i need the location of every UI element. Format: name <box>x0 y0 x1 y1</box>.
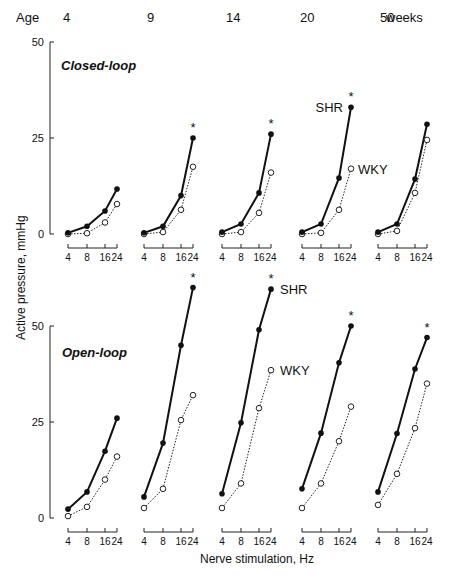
x-tick-label: 4 <box>299 536 305 547</box>
wky-point <box>299 505 305 511</box>
x-tick-label: 16 <box>253 536 265 547</box>
shr-point <box>178 342 184 348</box>
wky-point <box>348 166 354 172</box>
x-tick-label: 4 <box>141 536 147 547</box>
wky-point <box>256 210 262 216</box>
significance-star: * <box>268 116 273 131</box>
shr-point <box>299 486 305 492</box>
shr-annotation: SHR <box>316 100 343 115</box>
shr-point <box>160 440 166 446</box>
x-tick-label: 24 <box>421 536 433 547</box>
x-tick-label: 24 <box>265 536 277 547</box>
wky-point <box>102 220 108 226</box>
shr-point <box>336 360 342 366</box>
y-tick-label: 0 <box>38 228 44 240</box>
age-header: 9 <box>147 10 154 25</box>
x-tick-label: 16 <box>253 252 265 263</box>
age-header: 4 <box>63 10 70 25</box>
x-tick-label: 4 <box>299 252 305 263</box>
x-tick-label: 16 <box>175 536 187 547</box>
shr-point <box>375 229 381 235</box>
shr-point <box>318 430 324 436</box>
x-tick-label: 16 <box>99 252 111 263</box>
chart-figure: Age 49142050 weeks Closed-loop Open-loop… <box>0 0 461 579</box>
y-tick-label: 25 <box>32 416 44 428</box>
y-tick-label: 0 <box>38 512 44 524</box>
x-tick-label: 24 <box>345 536 357 547</box>
significance-star: * <box>190 120 195 135</box>
wky-point <box>141 505 147 511</box>
shr-line <box>222 134 271 232</box>
x-tick-label: 8 <box>394 536 400 547</box>
wky-point <box>394 228 400 234</box>
shr-point <box>256 327 262 333</box>
shr-point <box>219 491 225 497</box>
x-tick-label: 24 <box>187 252 199 263</box>
shr-line <box>144 288 193 497</box>
shr-point <box>348 323 354 329</box>
wky-point <box>268 170 274 176</box>
x-tick-label: 16 <box>409 252 421 263</box>
shr-point <box>336 175 342 181</box>
x-tick-label: 8 <box>84 252 90 263</box>
wky-line <box>68 457 117 517</box>
shr-line <box>222 289 271 494</box>
shr-point <box>412 176 418 182</box>
shr-point <box>394 221 400 227</box>
significance-star: * <box>424 320 429 335</box>
wky-point <box>336 438 342 444</box>
wky-point <box>318 230 324 236</box>
wky-point <box>238 229 244 235</box>
wky-line <box>302 407 351 508</box>
x-tick-label: 16 <box>333 536 345 547</box>
shr-point <box>141 230 147 236</box>
shr-point <box>84 224 90 230</box>
x-tick-label: 16 <box>175 252 187 263</box>
x-tick-label: 16 <box>333 252 345 263</box>
shr-annotation: SHR <box>280 282 307 297</box>
age-header: 14 <box>226 10 240 25</box>
wky-point <box>424 137 430 143</box>
wky-point <box>65 513 71 519</box>
x-tick-label: 8 <box>84 536 90 547</box>
shr-line <box>68 418 117 509</box>
shr-point <box>114 186 120 192</box>
shr-line <box>378 338 427 492</box>
wky-point <box>348 404 354 410</box>
shr-point <box>84 489 90 495</box>
x-tick-label: 24 <box>111 252 123 263</box>
x-tick-label: 4 <box>65 252 71 263</box>
wky-point <box>178 417 184 423</box>
shr-point <box>238 221 244 227</box>
shr-point <box>65 230 71 236</box>
shr-point <box>178 193 184 199</box>
x-tick-label: 16 <box>99 536 111 547</box>
shr-point <box>268 286 274 292</box>
y-axis-label: Active pressure, mmHg <box>14 215 28 340</box>
wky-point <box>336 207 342 213</box>
closed-loop-title: Closed-loop <box>61 58 136 73</box>
shr-point <box>65 506 71 512</box>
wky-point <box>160 486 166 492</box>
shr-point <box>219 229 225 235</box>
x-tick-label: 4 <box>375 536 381 547</box>
shr-point <box>160 224 166 230</box>
x-tick-label: 8 <box>318 252 324 263</box>
wky-point <box>114 454 120 460</box>
wky-annotation: WKY <box>280 363 310 378</box>
shr-line <box>302 107 351 232</box>
shr-point <box>190 135 196 141</box>
wky-point <box>219 505 225 511</box>
shr-line <box>378 124 427 232</box>
shr-point <box>412 366 418 372</box>
wky-point <box>190 164 196 170</box>
wky-point <box>178 207 184 213</box>
shr-line <box>302 326 351 489</box>
y-tick-label: 25 <box>32 132 44 144</box>
shr-point <box>424 335 430 341</box>
wky-line <box>222 173 271 234</box>
wky-point <box>412 425 418 431</box>
shr-point <box>375 489 381 495</box>
shr-point <box>102 448 108 454</box>
shr-point <box>348 104 354 110</box>
